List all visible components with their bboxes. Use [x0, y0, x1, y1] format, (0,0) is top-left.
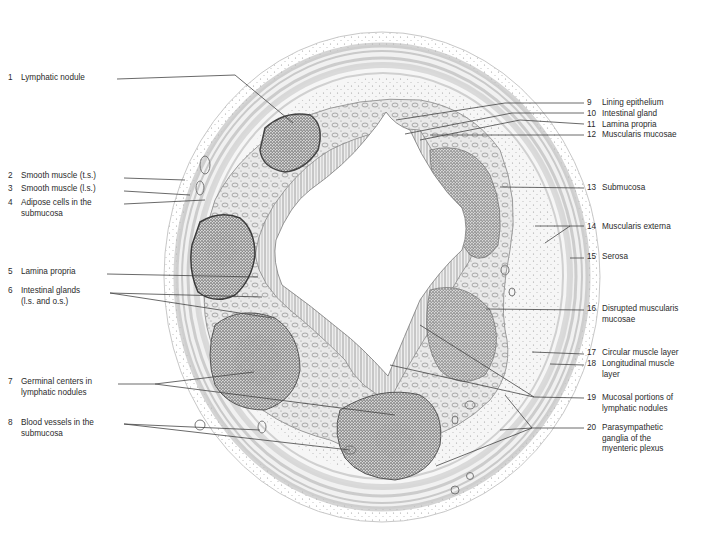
label-muscularis-mucosae: 12Muscularis mucosae [587, 130, 677, 141]
leader-line [532, 352, 584, 354]
label-text-line2: mucosae [587, 315, 678, 326]
label-smooth-muscle-ts: 2Smooth muscle (t.s.) [8, 171, 96, 182]
label-text-line2: submucosa [8, 209, 92, 220]
label-number: 20 [587, 423, 602, 434]
label-text-line2: ganglia of the [587, 434, 663, 445]
label-number: 13 [587, 183, 602, 194]
label-number: 2 [8, 171, 21, 182]
label-mucosal-portions: 19Mucosal portions oflymphatic nodules [587, 393, 673, 414]
label-germinal-centers: 7Germinal centers inlymphatic nodules [8, 377, 92, 398]
label-longitudinal-muscle-layer: 18Longitudinal musclelayer [587, 359, 674, 380]
label-number: 5 [8, 267, 21, 278]
label-circular-muscle-layer: 17Circular muscle layer [587, 348, 678, 359]
label-number: 11 [587, 120, 602, 131]
label-text: Germinal centers in [21, 377, 92, 386]
label-lymphatic-nodule: 1Lymphatic nodule [8, 73, 85, 84]
label-number: 9 [587, 98, 602, 109]
label-text-line2: layer [587, 370, 674, 381]
leader-line [124, 200, 205, 204]
label-parasympathetic-ganglia: 20Parasympatheticganglia of themyenteric… [587, 423, 663, 455]
label-number: 14 [587, 222, 602, 233]
label-intestinal-glands: 6Intestinal glands(l.s. and o.s.) [8, 286, 80, 307]
label-intestinal-gland: 10Intestinal gland [587, 109, 657, 120]
label-text-line2: submucosa [8, 429, 94, 440]
leader-line [118, 372, 254, 384]
label-text: Intestinal gland [602, 109, 657, 118]
label-text-line2: lymphatic nodules [587, 404, 673, 415]
leader-line [405, 113, 584, 134]
label-text: Smooth muscle (t.s.) [21, 171, 96, 180]
label-adipose-cells: 4Adipose cells in thesubmucosa [8, 198, 92, 219]
label-number: 3 [8, 184, 21, 195]
label-number: 6 [8, 286, 21, 297]
leader-line [420, 325, 584, 398]
label-text: Mucosal portions of [602, 393, 673, 402]
label-text: Smooth muscle (l.s.) [21, 184, 96, 193]
label-text: Adipose cells in the [21, 198, 92, 207]
leader-lines [0, 0, 713, 544]
label-number: 12 [587, 130, 602, 141]
label-text: Blood vessels in the [21, 418, 94, 427]
label-text: Submucosa [602, 183, 645, 192]
leader-line [550, 364, 584, 365]
leader-line [420, 120, 584, 140]
label-text: Muscularis mucosae [602, 130, 677, 139]
label-text: Parasympathetic [602, 423, 663, 432]
label-text-line2: (l.s. and o.s.) [8, 297, 80, 308]
label-lining-epithelium: 9Lining epithelium [587, 98, 663, 109]
leader-line [124, 191, 190, 195]
leader-line [124, 424, 260, 430]
label-number: 1 [8, 73, 21, 84]
label-submucosa: 13Submucosa [587, 183, 645, 194]
label-number: 8 [8, 418, 21, 429]
leader-line [545, 226, 570, 243]
label-text: Lymphatic nodule [21, 73, 85, 82]
label-text: Lining epithelium [602, 98, 663, 107]
label-blood-vessels: 8Blood vessels in thesubmucosa [8, 418, 94, 439]
label-lamina-propria-right: 11Lamina propria [587, 120, 657, 131]
label-text-line3: myenteric plexus [587, 444, 663, 455]
label-disrupted-muscularis-mucosae: 16Disrupted muscularismucosae [587, 304, 678, 325]
label-text: Serosa [602, 252, 628, 261]
label-lamina-propria-left: 5Lamina propria [8, 267, 76, 278]
label-number: 18 [587, 359, 602, 370]
label-text: Circular muscle layer [602, 348, 678, 357]
label-number: 17 [587, 348, 602, 359]
label-number: 19 [587, 393, 602, 404]
leader-line [486, 309, 584, 310]
label-muscularis-externa: 14Muscularis externa [587, 222, 671, 233]
label-text: Longitudinal muscle [602, 359, 674, 368]
leader-line [107, 274, 258, 277]
histology-figure [0, 0, 713, 544]
label-text: Lamina propria [21, 267, 76, 276]
leader-line [505, 395, 584, 428]
label-text: Lamina propria [602, 120, 657, 129]
label-number: 15 [587, 252, 602, 263]
leader-line [124, 178, 185, 180]
label-number: 16 [587, 304, 602, 315]
leader-line [117, 75, 293, 123]
leader-line [500, 187, 584, 188]
label-text: Disrupted muscularis [602, 304, 678, 313]
label-text-line2: lymphatic nodules [8, 388, 92, 399]
leader-line [124, 424, 350, 450]
label-number: 4 [8, 198, 21, 209]
label-text: Intestinal glands [21, 286, 80, 295]
label-text: Muscularis externa [602, 222, 671, 231]
label-smooth-muscle-ls: 3Smooth muscle (l.s.) [8, 184, 96, 195]
label-number: 7 [8, 377, 21, 388]
leader-line [436, 428, 532, 466]
leader-line [390, 365, 534, 397]
leader-line [155, 384, 395, 415]
label-serosa: 15Serosa [587, 252, 628, 263]
label-number: 10 [587, 109, 602, 120]
